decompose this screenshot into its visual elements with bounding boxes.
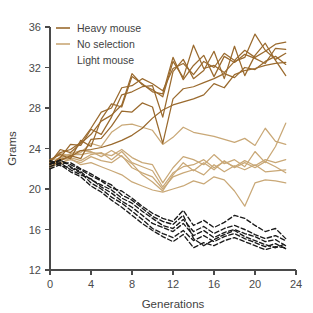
y-tick-label: 32 — [29, 62, 41, 74]
x-tick-label: 0 — [47, 278, 53, 290]
y-tick-label: 12 — [29, 264, 41, 276]
line-chart: 1216202428323604812162024 Heavy mouseNo … — [0, 0, 313, 313]
y-tick-label: 36 — [29, 21, 41, 33]
chart-figure: 1216202428323604812162024 Heavy mouseNo … — [0, 0, 313, 313]
x-tick-label: 12 — [167, 278, 179, 290]
legend-item-no-selection[interactable]: No selection — [56, 38, 135, 50]
series-line-nosel-2 — [50, 123, 286, 183]
x-tick-label: 4 — [88, 278, 94, 290]
x-tick-label: 24 — [290, 278, 302, 290]
x-axis-title: Generations — [142, 298, 205, 310]
x-tick-label: 20 — [249, 278, 261, 290]
y-axis-title: Grams — [6, 131, 18, 166]
legend-label: Light mouse — [77, 54, 134, 66]
y-tick-label: 20 — [29, 183, 41, 195]
y-tick-label: 24 — [29, 143, 41, 155]
legend-label: Heavy mouse — [77, 22, 141, 34]
legend-item-light-mouse[interactable]: Light mouse — [77, 54, 134, 66]
x-tick-label: 8 — [129, 278, 135, 290]
legend-item-heavy-mouse[interactable]: Heavy mouse — [56, 22, 141, 34]
series-group-light-mouse — [50, 160, 286, 250]
legend-label: No selection — [77, 38, 135, 50]
y-tick-label: 16 — [29, 224, 41, 236]
chart-legend: Heavy mouseNo selectionLight mouse — [56, 22, 141, 66]
series-line-nosel-3 — [50, 152, 286, 187]
series-lines — [50, 34, 286, 250]
x-tick-label: 16 — [208, 278, 220, 290]
y-tick-label: 28 — [29, 102, 41, 114]
